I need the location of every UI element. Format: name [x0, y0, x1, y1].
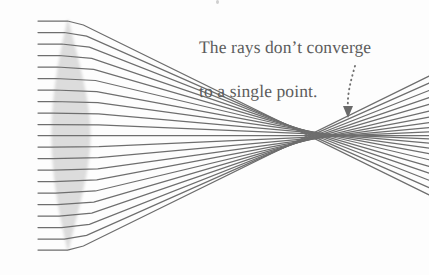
scan-artifact-speck [216, 0, 219, 4]
spherical-aberration-figure: The rays don’t converge to a single poin… [0, 0, 429, 275]
light-ray [38, 132, 429, 147]
light-ray [38, 125, 429, 139]
annotation-line-1: The rays don’t converge [199, 36, 417, 58]
annotation-caption: The rays don’t converge to a single poin… [199, 14, 417, 124]
annotation-line-2: to a single point. [199, 80, 417, 102]
